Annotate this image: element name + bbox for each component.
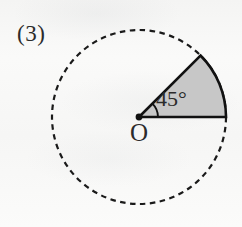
figure-canvas: (3) 45° O <box>0 0 242 227</box>
angle-measure-label: 45° <box>156 88 187 110</box>
origin-point-label: O <box>130 120 148 145</box>
item-number-label: (3) <box>17 22 45 45</box>
